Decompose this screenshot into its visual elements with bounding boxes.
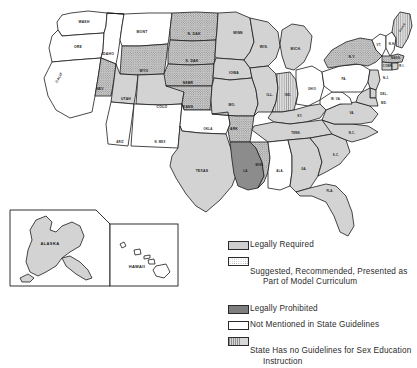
label-ark: ARK [230, 127, 238, 131]
label-del: DEL. [380, 92, 387, 96]
label-wis: WIS. [260, 45, 268, 49]
label-mont: MONT [137, 30, 149, 34]
label-nj: N.J. [383, 76, 389, 80]
hawaii-island-oahu[interactable] [134, 249, 141, 255]
legend-label-suggested: Suggested, Recommended, Presented as Par… [250, 256, 407, 298]
label-ohio: OHIO [308, 87, 317, 91]
legend-swatch-not-mentioned [228, 321, 249, 330]
label-nc: N.C. [349, 131, 356, 135]
legend-label-legally-required: Legally Required [250, 240, 314, 251]
label-ill: ILL. [266, 93, 273, 97]
label-sdak: S. DAK [186, 59, 199, 63]
legend-label-no-guidelines-line1: State Has no Guidelines for Sex Educatio… [250, 346, 411, 355]
label-ga: GA. [301, 167, 307, 171]
label-texas: TEXAS [196, 169, 209, 173]
label-mass: MASS. [391, 56, 401, 60]
legend-swatch-suggested [228, 257, 249, 266]
label-tenn: TENN. [291, 131, 301, 135]
label-hawaii: HAWAII [129, 264, 146, 269]
state-alabama[interactable] [268, 140, 292, 190]
label-ala: ALA. [276, 169, 284, 173]
label-ind: IND. [285, 93, 292, 97]
label-conn: CONN. [383, 64, 393, 68]
label-utah: UTAH [121, 97, 131, 101]
legend-label-suggested-line1: Suggested, Recommended, Presented as [250, 267, 407, 276]
label-idaho: IDAHO [102, 52, 114, 56]
legend-label-not-mentioned: Not Mentioned in State Guidelines [250, 320, 379, 331]
label-fla: FLA. [326, 189, 333, 193]
label-mich: MICH. [291, 47, 302, 51]
label-iowa: IOWA [229, 71, 239, 75]
label-mo: MO. [228, 103, 235, 107]
state-new-jersey[interactable] [368, 70, 380, 90]
legend-item-suggested[interactable]: Suggested, Recommended, Presented as Par… [228, 256, 417, 298]
label-ky: KY. [297, 114, 302, 118]
state-florida[interactable] [296, 184, 354, 236]
label-minn: MINN [233, 31, 243, 35]
legend-item-legally-prohibited[interactable]: Legally Prohibited [228, 304, 417, 315]
state-north-dakota[interactable] [170, 12, 218, 41]
hawaii-inset-frame [110, 224, 178, 286]
legend-item-legally-required[interactable]: Legally Required [228, 240, 417, 251]
label-sc: S.C. [333, 153, 339, 157]
legend-item-no-guidelines[interactable]: State Has no Guidelines for Sex Educatio… [228, 336, 417, 368]
label-colo: COLO [157, 105, 168, 109]
label-ndak: N. DAK [187, 32, 200, 36]
hawaii-island-maui[interactable] [148, 259, 155, 264]
label-nh: N.H. [389, 42, 396, 46]
label-ri: R.I. [399, 64, 404, 68]
state-missouri[interactable] [211, 78, 258, 116]
label-nmex: N. MEX [154, 140, 165, 144]
label-nebr: NEBR [183, 81, 194, 85]
legend-label-legally-prohibited: Legally Prohibited [250, 304, 318, 315]
label-vt: VT. [377, 43, 382, 47]
label-wash: WASH [78, 20, 89, 24]
legend-item-not-mentioned[interactable]: Not Mentioned in State Guidelines [228, 320, 417, 331]
label-alaska: ALASKA [40, 241, 59, 246]
state-minnesota[interactable] [215, 12, 254, 60]
label-pa: PA. [341, 77, 346, 81]
label-ore: ORE [74, 45, 83, 49]
state-delaware[interactable] [370, 88, 376, 98]
legend-swatch-no-guidelines [228, 337, 249, 346]
label-md: MD. [381, 101, 387, 105]
label-ariz: ARIZ [116, 140, 124, 144]
legend-label-no-guidelines: State Has no Guidelines for Sex Educatio… [250, 336, 411, 368]
hawaii-island-molokai[interactable] [144, 255, 150, 259]
label-nev: NEV [96, 87, 104, 91]
label-okla: OKLA [204, 127, 213, 131]
map-legend: Legally Required Suggested, Recommended,… [228, 240, 417, 368]
legend-label-suggested-line2: Part of Model Curriculum [250, 277, 407, 288]
label-wyo: WYO [140, 69, 149, 73]
alaska-inset: ALASKA [10, 210, 110, 286]
label-kans: KANS [183, 105, 194, 109]
state-california[interactable] [44, 58, 101, 118]
label-ny: N.Y. [348, 55, 355, 59]
legend-swatch-legally-required [228, 241, 249, 250]
map-region-southeast [252, 92, 378, 236]
legend-label-no-guidelines-line2: Instruction [250, 357, 411, 368]
hawaii-inset: HAWAII [110, 224, 178, 286]
label-va: VA. [349, 111, 354, 115]
label-miss: MISS. [256, 163, 265, 167]
label-la: LA. [243, 169, 248, 173]
legend-swatch-legally-prohibited [228, 305, 249, 314]
label-wva: W. VA. [331, 97, 341, 101]
